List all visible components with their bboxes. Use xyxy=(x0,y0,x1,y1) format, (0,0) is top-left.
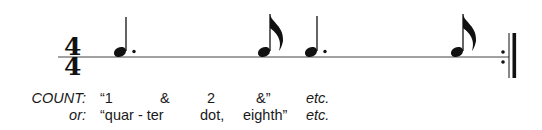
end-repeat-barline xyxy=(501,33,516,78)
alt-count-etc: etc. xyxy=(306,107,329,123)
count-syllable-and-1: & xyxy=(160,90,170,106)
count-etc: etc. xyxy=(306,90,329,106)
count-syllable-2: 2 xyxy=(207,90,215,106)
dotted-quarter-note-1 xyxy=(112,17,135,59)
count-syllable-1: “1 xyxy=(100,90,113,106)
dotted-quarter-note-2 xyxy=(303,16,326,59)
eighth-note-1 xyxy=(256,14,283,59)
eighth-note-2 xyxy=(449,14,476,59)
flag-icon xyxy=(463,14,476,51)
augmentation-dot xyxy=(323,50,326,53)
count-syllable-and-2: &” xyxy=(256,90,271,106)
alt-count-label: or: xyxy=(69,107,86,123)
time-signature-denominator: 4 xyxy=(64,57,81,77)
alt-count-dot: dot, xyxy=(200,107,224,123)
alt-count-eighth: eighth” xyxy=(243,107,287,123)
alt-count-quarter: “quar - ter xyxy=(100,107,164,123)
count-label: COUNT: xyxy=(31,90,86,106)
flag-icon xyxy=(270,14,283,51)
augmentation-dot xyxy=(132,50,135,53)
